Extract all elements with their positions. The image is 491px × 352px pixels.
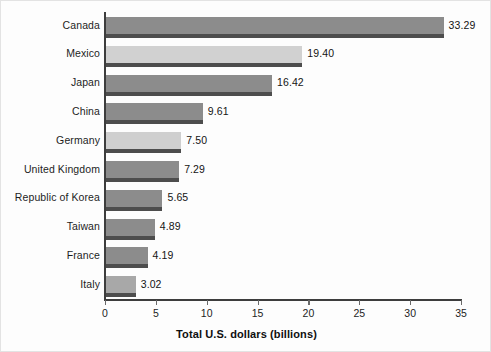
bar-body	[105, 276, 136, 293]
bar-shadow	[105, 34, 444, 38]
bar	[105, 190, 162, 207]
bar-body	[105, 46, 302, 63]
category-label: Japan	[1, 76, 100, 88]
bar-value-label: 4.89	[160, 220, 181, 232]
category-label: Taiwan	[1, 220, 100, 232]
x-tick	[410, 300, 411, 305]
bar	[105, 46, 302, 63]
x-tick	[105, 300, 106, 305]
bar-value-label: 16.42	[277, 76, 304, 88]
bar	[105, 247, 148, 264]
bar-body	[105, 17, 444, 34]
bar-shadow	[105, 236, 155, 240]
bar-shadow	[105, 149, 181, 153]
bar-body	[105, 75, 272, 92]
x-axis-line	[104, 299, 462, 301]
x-tick-label: 5	[153, 307, 159, 319]
bar-body	[105, 103, 203, 120]
x-tick-label: 30	[404, 307, 416, 319]
x-tick	[156, 300, 157, 305]
bar-value-label: 5.65	[167, 191, 188, 203]
bar-body	[105, 190, 162, 207]
bar	[105, 219, 155, 236]
bar-body	[105, 161, 179, 178]
bar-value-label: 9.61	[208, 105, 229, 117]
x-tick-label: 10	[201, 307, 213, 319]
bar-value-label: 4.19	[153, 249, 174, 261]
category-label: Republic of Korea	[1, 191, 100, 203]
bar-chart: CanadaMexicoJapanChinaGermanyUnited King…	[0, 0, 491, 352]
bar-value-label: 33.29	[449, 19, 476, 31]
bar	[105, 103, 203, 120]
bar-shadow	[105, 92, 272, 96]
bar	[105, 75, 272, 92]
bar-value-label: 7.50	[186, 134, 207, 146]
x-tick-label: 15	[252, 307, 264, 319]
bar-shadow	[105, 178, 179, 182]
bar-shadow	[105, 63, 302, 67]
plot-area: 33.2919.4016.429.617.507.295.654.894.193…	[105, 11, 461, 299]
x-tick-label: 0	[102, 307, 108, 319]
x-axis-title: Total U.S. dollars (billions)	[1, 328, 491, 340]
bar-value-label: 19.40	[307, 47, 334, 59]
bar-body	[105, 247, 148, 264]
bar	[105, 17, 444, 34]
x-tick	[258, 300, 259, 305]
x-tick	[207, 300, 208, 305]
bar-shadow	[105, 264, 148, 268]
x-tick-label: 25	[353, 307, 365, 319]
bar	[105, 276, 136, 293]
category-axis-labels: CanadaMexicoJapanChinaGermanyUnited King…	[1, 11, 100, 299]
bar-shadow	[105, 207, 162, 211]
bar-shadow	[105, 293, 136, 297]
x-tick-label: 35	[455, 307, 467, 319]
bar	[105, 161, 179, 178]
bar-body	[105, 132, 181, 149]
x-tick	[461, 300, 462, 305]
bar-value-label: 3.02	[141, 278, 162, 290]
bar	[105, 132, 181, 149]
category-label: United Kingdom	[1, 163, 100, 175]
category-label: France	[1, 249, 100, 261]
bar-value-label: 7.29	[184, 163, 205, 175]
category-label: Canada	[1, 19, 100, 31]
y-axis-line	[104, 12, 106, 300]
category-label: China	[1, 105, 100, 117]
x-tick	[359, 300, 360, 305]
category-label: Italy	[1, 278, 100, 290]
category-label: Mexico	[1, 47, 100, 59]
bar-body	[105, 219, 155, 236]
x-tick-label: 20	[303, 307, 315, 319]
x-tick	[308, 300, 309, 305]
category-label: Germany	[1, 134, 100, 146]
bar-shadow	[105, 120, 203, 124]
